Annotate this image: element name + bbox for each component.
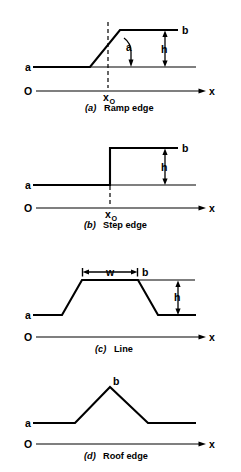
caption-index-d: (d) [84,451,96,461]
label-x-axis-c: x [209,331,215,343]
label-x-axis-a: x [209,85,215,97]
label-high-level-a: b [182,24,188,36]
label-low-level-d: a [25,417,31,429]
label-peak-d: b [113,375,119,387]
label-low-level-b: a [25,179,31,191]
label-origin-b: O [24,202,32,214]
caption-index-c: (c) [95,344,106,354]
line-profile-path [33,280,196,315]
height-arrowhead-bottom-b [162,179,167,186]
label-high-level-b: b [182,142,188,154]
panel-a-ramp-edge: a b h a O x x O (a) Ramp edge [24,22,215,113]
label-angle-alpha-a: a [126,42,132,53]
caption-index-a: (a) [85,103,96,113]
label-origin-d: O [24,438,32,450]
caption-text-d: Roof edge [103,451,148,461]
height-arrowhead-top-a [162,31,167,38]
panel-b-step-edge: a b h O x x O (b) Step edge [24,142,215,231]
x-axis-arrowhead-d [199,442,207,447]
panel-c-line: a b w h O x (c) Line [24,266,215,354]
caption-text-a: Ramp edge [104,103,154,113]
label-x0-a: x [103,91,109,103]
x-axis-arrowhead-a [199,89,207,94]
height-arrowhead-bottom-a [162,61,167,68]
figure-canvas: a b h a O x x O (a) Ramp edge [0,0,241,472]
edge-profile-figure: a b h a O x x O (a) Ramp edge [0,0,241,472]
label-high-level-c: b [142,266,148,278]
x-axis-arrowhead-c [199,335,207,340]
label-x0-b: x [105,208,111,220]
step-profile-path [33,148,178,185]
ramp-profile-path [33,30,178,67]
label-origin-a: O [24,85,32,97]
width-arrowhead-right-c [131,270,138,275]
roof-profile-path [33,387,196,423]
caption-text-c: Line [114,344,133,354]
label-origin-c: O [24,331,32,343]
caption-text-b: Step edge [103,220,147,230]
label-height-b: h [161,161,167,173]
height-arrowhead-top-b [162,149,167,156]
label-x-axis-b: x [209,202,215,214]
label-x-axis-d: x [209,438,215,450]
x-axis-arrowhead-b [199,206,207,211]
caption-index-b: (b) [84,220,96,230]
label-height-a: h [161,43,167,55]
label-height-c: h [174,291,180,303]
label-low-level-c: a [25,309,31,321]
label-width-c: w [105,266,115,278]
height-arrowhead-top-c [175,281,180,288]
angle-arrowhead-a [129,60,134,68]
panel-d-roof-edge: a b O x (d) Roof edge [24,375,215,461]
label-low-level-a: a [25,61,31,73]
width-arrowhead-left-c [83,270,90,275]
